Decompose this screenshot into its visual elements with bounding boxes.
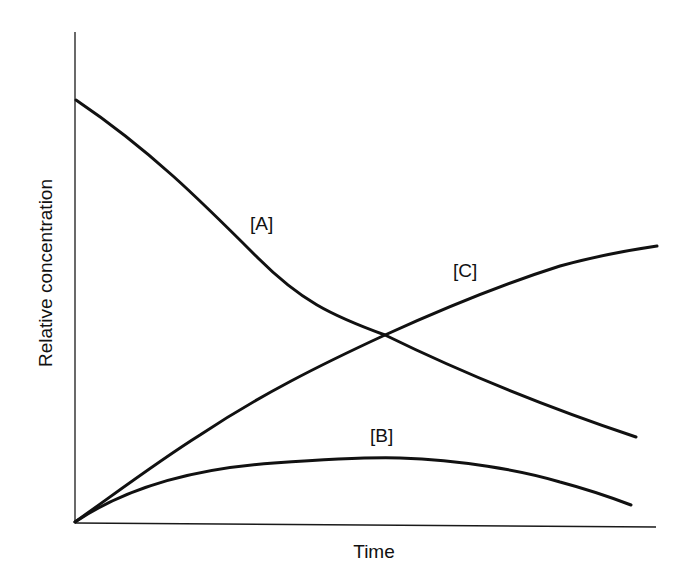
y-axis-label: Relative concentration xyxy=(35,179,56,367)
concentration-time-chart: [A] [B] [C] Time Relative concentration xyxy=(0,0,687,584)
x-axis xyxy=(75,523,656,527)
label-b: [B] xyxy=(370,425,393,446)
label-a: [A] xyxy=(250,213,273,234)
x-axis-label: Time xyxy=(353,541,395,562)
curve-b xyxy=(75,458,631,522)
label-c: [C] xyxy=(453,260,477,281)
